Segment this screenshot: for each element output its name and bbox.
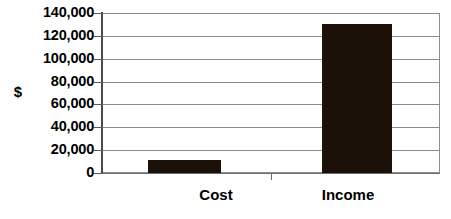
x-axis-category-separator [271, 173, 272, 180]
y-axis-tick-mark [94, 59, 103, 60]
y-axis-tick-label: 140,000 [18, 5, 94, 20]
y-axis-tick-mark [94, 13, 103, 14]
y-axis-tick-label: 120,000 [18, 28, 94, 43]
y-axis-tick-label: 20,000 [18, 142, 94, 157]
bar-income [322, 24, 392, 173]
y-axis-tick-label: 100,000 [18, 51, 94, 66]
y-axis-tick-labels: 140,000120,000100,00080,00060,00040,0002… [18, 0, 94, 219]
bar-cost [148, 160, 221, 173]
gridline [102, 13, 440, 14]
y-axis-tick-mark [94, 173, 103, 174]
y-axis-tick-label: 0 [18, 165, 94, 180]
bar-chart: $ 140,000120,000100,00080,00060,00040,00… [0, 0, 451, 219]
y-axis-tick-mark [94, 36, 103, 37]
y-axis-tick-mark [94, 150, 103, 151]
y-axis-tick-label: 80,000 [18, 74, 94, 89]
y-axis-tick-mark [94, 127, 103, 128]
y-axis-tick-mark [94, 104, 103, 105]
y-axis-tick-label: 60,000 [18, 96, 94, 111]
y-axis-tick-mark [94, 82, 103, 83]
y-axis-tick-label: 40,000 [18, 119, 94, 134]
x-axis-label-cost: Cost [146, 186, 286, 203]
x-axis-label-income: Income [278, 186, 418, 203]
